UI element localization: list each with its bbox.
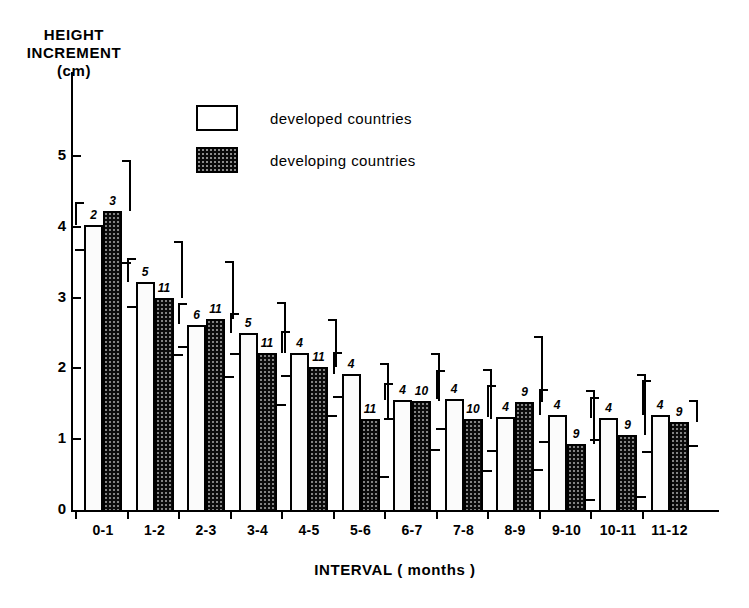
error-bar-cap-upper: [483, 369, 492, 371]
error-bar-stem: [230, 313, 232, 333]
legend-label-developed: developed countries: [270, 110, 412, 127]
sample-size-label: 4: [544, 398, 570, 412]
error-bar-cap-lower: [178, 346, 187, 348]
error-bar-cap-upper: [380, 363, 389, 365]
bar-developing-9-10: [567, 444, 586, 512]
error-bar-cap-upper: [436, 370, 445, 372]
error-bar-cap-upper: [281, 331, 290, 333]
sample-size-label: 3: [100, 194, 126, 208]
legend: developed countries developing countries: [196, 97, 416, 181]
error-bar-cap-upper: [539, 389, 548, 391]
bar-developed-2-3: [187, 325, 206, 512]
error-bar-cap-lower: [380, 476, 389, 478]
sample-size-label: 9: [666, 405, 692, 419]
error-bar-cap-lower: [281, 375, 290, 377]
error-bar-cap-lower: [689, 445, 698, 447]
error-bar-cap-lower: [174, 354, 183, 356]
sample-size-label: 9: [563, 427, 589, 441]
error-bar-stem: [539, 389, 541, 415]
filled-square-icon: [196, 147, 238, 173]
error-bar-cap-upper: [586, 390, 595, 392]
bar-developed-3-4: [239, 333, 258, 512]
x-axis-tick: [642, 512, 644, 519]
x-axis-tick: [281, 512, 283, 519]
bar-developing-5-6: [361, 419, 380, 512]
y-axis-title: HEIGHT INCREMENT (cm): [8, 26, 140, 80]
error-bar-cap-lower: [431, 449, 440, 451]
x-axis-tick-label: 11-12: [640, 522, 700, 538]
sample-size-label: 10: [409, 384, 435, 398]
error-bar-cap-lower: [436, 428, 445, 430]
bar-developing-4-5: [309, 367, 328, 512]
bar-developed-11-12: [651, 415, 670, 512]
error-bar-cap-upper: [328, 319, 337, 321]
chart-figure: HEIGHT INCREMENT (cm) 012345 23511611511…: [0, 0, 749, 608]
bar-developing-3-4: [258, 353, 277, 512]
y-axis-tick-label: 3: [44, 288, 66, 305]
error-bar-stem: [284, 302, 286, 353]
x-axis-tick: [75, 512, 77, 519]
sample-size-label: 9: [615, 418, 641, 432]
error-bar-cap-upper: [590, 397, 599, 399]
y-axis-tick-label: 0: [44, 500, 66, 517]
error-bar-cap-lower: [590, 439, 599, 441]
error-bar-stem: [281, 331, 283, 353]
bar-developing-1-2: [155, 298, 174, 512]
sample-size-label: 4: [596, 401, 622, 415]
error-bar-cap-upper: [127, 258, 136, 260]
error-bar-stem: [178, 303, 180, 324]
error-bar-cap-upper: [230, 313, 239, 315]
y-axis-title-line-2: INCREMENT: [8, 44, 140, 62]
sample-size-label: 11: [203, 302, 229, 316]
sample-size-label: 11: [254, 336, 280, 350]
open-square-icon: [196, 105, 238, 131]
x-axis-tick: [384, 512, 386, 519]
error-bar-cap-upper: [174, 241, 183, 243]
bar-developing-10-11: [618, 435, 637, 512]
y-axis-title-line-3: (cm): [8, 62, 140, 80]
error-bar-stem: [436, 370, 438, 399]
sample-size-label: 4: [338, 357, 364, 371]
error-bar-stem: [590, 397, 592, 418]
error-bar-stem: [232, 261, 234, 318]
bar-developed-8-9: [496, 417, 515, 512]
error-bar-stem: [127, 258, 129, 282]
error-bar-cap-upper: [333, 352, 342, 354]
error-bar-cap-upper: [277, 302, 286, 304]
sample-size-label: 9: [512, 385, 538, 399]
error-bar-cap-upper: [487, 385, 496, 387]
x-axis-tick: [333, 512, 335, 519]
bar-developing-7-8: [464, 419, 483, 512]
x-axis-tick: [487, 512, 489, 519]
error-bar-cap-lower: [328, 415, 337, 417]
y-axis-tick: [73, 438, 81, 440]
legend-item-developed: developed countries: [196, 97, 416, 139]
error-bar-cap-upper: [178, 303, 187, 305]
error-bar-cap-upper: [431, 353, 440, 355]
error-bar-stem: [644, 374, 646, 435]
sample-size-label: 4: [441, 382, 467, 396]
error-bar-cap-lower: [642, 451, 651, 453]
sample-size-label: 10: [460, 402, 486, 416]
bar-developing-2-3: [206, 319, 225, 512]
error-bar-stem: [75, 202, 77, 225]
sample-size-label: 5: [235, 316, 261, 330]
y-axis-tick: [73, 297, 81, 299]
bar-developed-10-11: [599, 418, 618, 512]
error-bar-cap-lower: [534, 469, 543, 471]
error-bar-cap-lower: [483, 470, 492, 472]
x-axis-tick: [178, 512, 180, 519]
x-axis-tick: [436, 512, 438, 519]
error-bar-cap-lower: [127, 306, 136, 308]
error-bar-stem: [335, 319, 337, 367]
error-bar-stem: [384, 383, 386, 401]
x-axis-title: INTERVAL ( months ): [71, 561, 719, 578]
error-bar-cap-upper: [225, 261, 234, 263]
error-bar-cap-lower: [384, 418, 393, 420]
error-bar-cap-lower: [586, 499, 595, 501]
error-bar-cap-upper: [75, 202, 84, 204]
legend-item-developing: developing countries: [196, 139, 416, 181]
error-bar-cap-upper: [534, 336, 543, 338]
error-bar-stem: [642, 380, 644, 415]
x-axis-tick: [539, 512, 541, 519]
